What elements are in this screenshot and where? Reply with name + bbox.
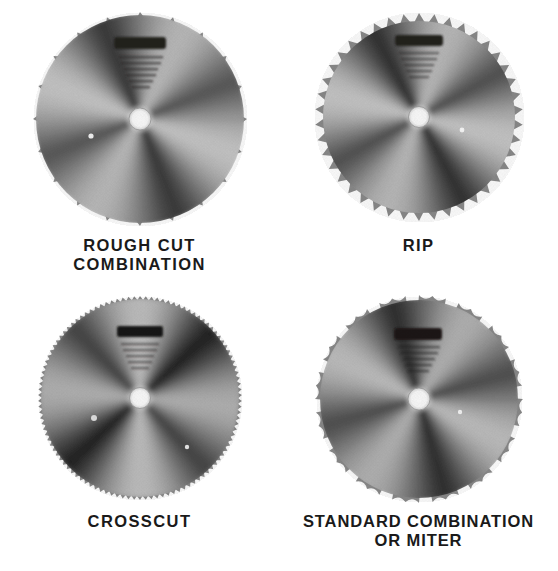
blade-cell-crosscut: CROSSCUT: [0, 292, 279, 571]
rip-blade-illustration: [310, 8, 528, 226]
crosscut-blade-illustration: [34, 292, 246, 504]
blade-cell-standard-combination-or-miter: STANDARD COMBINATION OR MITER: [279, 292, 558, 571]
blade-brand-stamp: [395, 35, 443, 46]
blade-pin-hole: [459, 128, 464, 133]
blade-brand-stamp: [394, 328, 442, 340]
blade-arbor-hole: [408, 388, 430, 410]
blade-caption-rip: RIP: [403, 236, 435, 255]
blade-arbor-hole: [408, 107, 429, 128]
blade-figure-rough-cut-combination: [29, 8, 251, 230]
blade-brand-stamp: [114, 37, 166, 49]
blade-caption-rough-cut-combination: ROUGH CUT COMBINATION: [73, 236, 205, 274]
blade-brand-stamp: [117, 326, 163, 337]
blade-pin-hole: [457, 410, 461, 414]
blade-pin-hole-secondary: [184, 445, 188, 449]
blade-pin-hole: [88, 133, 93, 138]
blade-cell-rip: RIP: [279, 8, 558, 286]
standard-combination-or-miter-blade-illustration: [312, 292, 526, 506]
saw-blade-plate: ROUGH CUT COMBINATION: [0, 0, 558, 571]
blade-arbor-hole: [129, 108, 151, 130]
blade-figure-standard-combination-or-miter: [312, 292, 526, 506]
blade-figure-crosscut: [34, 292, 246, 504]
blade-caption-crosscut: CROSSCUT: [88, 512, 192, 531]
blade-figure-rip: [310, 8, 528, 226]
rough-cut-combination-blade-illustration: [29, 8, 251, 230]
blade-cell-rough-cut-combination: ROUGH CUT COMBINATION: [0, 8, 279, 286]
blade-pin-hole: [91, 415, 97, 421]
blade-arbor-hole: [129, 388, 150, 409]
blade-caption-standard-combination-or-miter: STANDARD COMBINATION OR MITER: [303, 512, 534, 550]
